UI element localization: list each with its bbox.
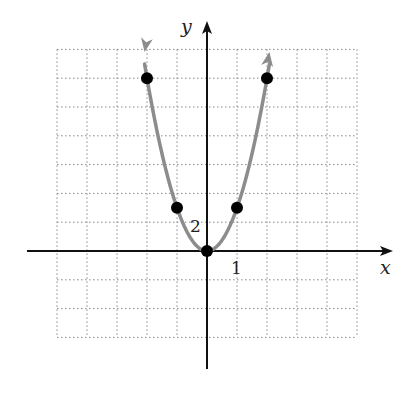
data-point <box>141 72 153 84</box>
graph: y x 1 2 <box>0 0 416 394</box>
data-point <box>231 202 243 214</box>
x-axis-label: x <box>380 256 391 278</box>
x-tick-label: 1 <box>231 258 242 278</box>
y-tick-label: 2 <box>190 216 201 236</box>
data-point <box>261 72 273 84</box>
data-point <box>171 202 183 214</box>
y-axis-label: y <box>180 15 192 37</box>
data-point <box>201 245 213 257</box>
